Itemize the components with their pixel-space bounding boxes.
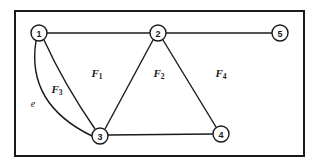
- node-3-label: 3: [97, 132, 102, 142]
- face-label-f1-sub: 1: [99, 72, 103, 81]
- node-3[interactable]: 3: [92, 128, 108, 144]
- face-label-f4: F4: [214, 67, 226, 81]
- face-label-f2-sub: 2: [161, 72, 165, 81]
- node-4[interactable]: 4: [213, 126, 229, 142]
- edge-1-3-outer: [35, 41, 92, 136]
- node-4-label: 4: [218, 130, 223, 140]
- edge-labels-group: e: [31, 98, 36, 109]
- node-2[interactable]: 2: [150, 25, 166, 41]
- face-label-f4-sub: 4: [223, 72, 227, 81]
- node-5[interactable]: 5: [272, 25, 288, 41]
- figure-container: 1 2 3 4 5 F1 F2 F3 F4: [0, 0, 318, 168]
- edge-3-4: [108, 134, 213, 135]
- nodes-group: 1 2 3 4 5: [31, 25, 288, 144]
- face-label-f3: F3: [50, 83, 62, 97]
- face-label-f1: F1: [90, 67, 102, 81]
- node-2-label: 2: [155, 29, 160, 39]
- edge-2-4: [163, 40, 216, 127]
- face-labels-group: F1 F2 F3 F4: [50, 67, 226, 97]
- face-label-f2: F2: [152, 67, 164, 81]
- edge-label-e: e: [31, 98, 36, 109]
- node-5-label: 5: [277, 29, 282, 39]
- node-1-label: 1: [36, 29, 41, 39]
- edges-group: [35, 33, 272, 136]
- graph-diagram: 1 2 3 4 5 F1 F2 F3 F4: [0, 0, 318, 168]
- node-1[interactable]: 1: [31, 25, 47, 41]
- edge-2-3: [105, 40, 153, 129]
- face-label-f3-sub: 3: [59, 88, 63, 97]
